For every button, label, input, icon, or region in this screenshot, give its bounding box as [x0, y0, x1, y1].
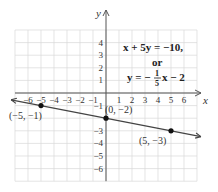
- x-tick-label: 5: [169, 95, 174, 105]
- y-tick-label: 4: [99, 38, 104, 48]
- x-tick-label: −3: [62, 95, 72, 105]
- x-tick-label: 4: [156, 95, 161, 105]
- y-tick-label: −4: [93, 138, 103, 148]
- y-axis-label: y: [95, 7, 101, 19]
- y-tick-label: 2: [99, 63, 104, 73]
- data-points: (−5, −1)(0, −2)(5, −3): [9, 103, 174, 147]
- y-tick-label: −6: [93, 164, 103, 174]
- data-point: [38, 103, 43, 108]
- equation-fraction-denominator: 5: [155, 79, 159, 88]
- point-label: (−5, −1): [9, 110, 42, 122]
- equation-standard-form: x + 5y = −10,: [123, 41, 183, 53]
- equation-or: or: [152, 56, 163, 68]
- x-tick-label: 6: [182, 95, 187, 105]
- y-tick-label: −5: [93, 151, 103, 161]
- data-point: [168, 128, 173, 133]
- point-label: (0, −2): [105, 104, 132, 116]
- data-point: [103, 116, 108, 121]
- y-tick-label: 1: [99, 75, 104, 85]
- equation-slope-form-suffix: x − 2: [162, 71, 185, 83]
- x-tick-label: −4: [49, 95, 59, 105]
- y-tick-label: −3: [93, 126, 103, 136]
- graph: −6−5−4−3−2−11234564321−1−3−4−5−6 (−5, −1…: [0, 0, 218, 192]
- x-axis-label: x: [202, 94, 208, 106]
- point-label: (5, −3): [139, 135, 166, 147]
- equation-fraction-numerator: 1: [155, 69, 159, 78]
- x-tick-label: 3: [143, 95, 148, 105]
- equation-slope-form-prefix: y = −: [127, 71, 151, 83]
- y-tick-label: −1: [93, 101, 103, 111]
- x-tick-label: −2: [75, 95, 85, 105]
- y-tick-label: 3: [99, 50, 104, 60]
